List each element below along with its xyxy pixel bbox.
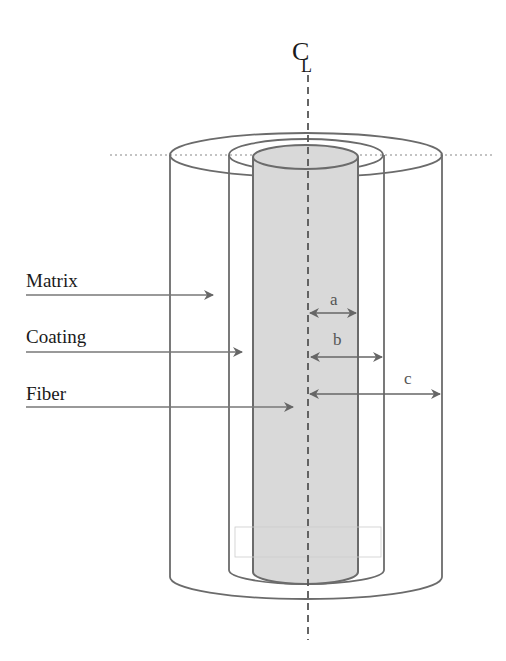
dimension-label-a: a [330, 290, 338, 309]
concentric-cylinder-diagram: C L Matrix Coating Fiber a b c [0, 0, 506, 661]
centerline-symbol: C L [292, 37, 312, 76]
dimension-label-c: c [404, 369, 412, 388]
dimension-label-b: b [333, 330, 342, 349]
centerline-l: L [301, 56, 312, 76]
fiber-cylinder [253, 145, 358, 584]
label-fiber: Fiber [26, 383, 67, 404]
label-matrix: Matrix [26, 270, 78, 291]
label-coating: Coating [26, 326, 87, 347]
